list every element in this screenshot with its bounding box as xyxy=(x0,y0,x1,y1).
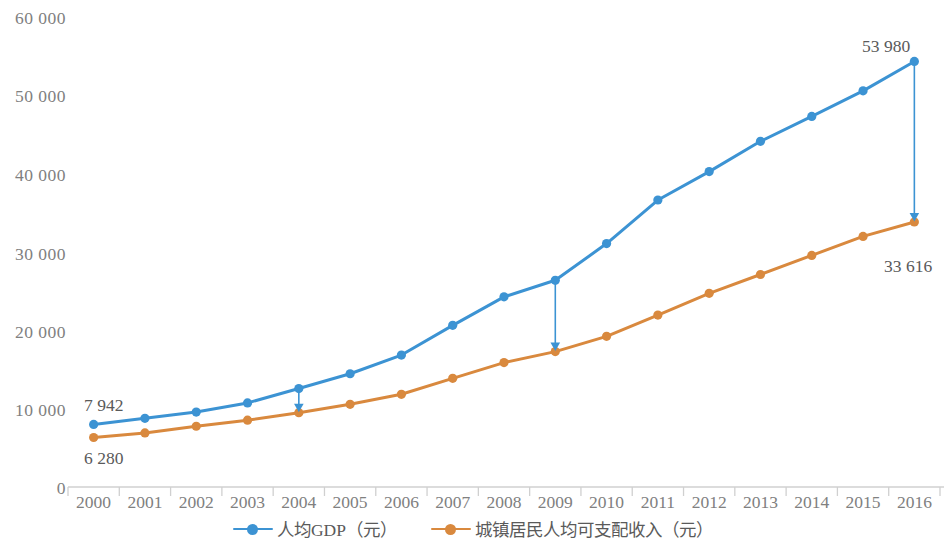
x-tick-label: 2000 xyxy=(76,492,111,513)
x-tick-label: 2009 xyxy=(538,492,573,513)
gap-arrow-2009 xyxy=(550,280,560,351)
gap-arrow-2016 xyxy=(910,61,920,221)
legend-item-income[interactable]: 城镇居民人均可支配收入（元） xyxy=(431,516,713,541)
data-point-income xyxy=(756,270,765,279)
plot-area xyxy=(0,0,946,546)
x-tick-label: 2005 xyxy=(333,492,368,513)
data-point-gdp xyxy=(192,407,201,416)
data-point-income xyxy=(705,289,714,298)
x-tick-label: 2003 xyxy=(230,492,265,513)
x-tick-label: 2004 xyxy=(281,492,316,513)
legend-item-gdp[interactable]: 人均GDP（元） xyxy=(233,516,397,541)
x-tick-label: 2011 xyxy=(641,492,675,513)
gap-arrow-2004 xyxy=(294,389,304,413)
legend-line-marker-icon xyxy=(431,522,471,536)
x-tick-label: 2007 xyxy=(435,492,470,513)
data-point-gdp xyxy=(705,167,714,176)
data-point-income xyxy=(243,416,252,425)
x-tick-label: 2008 xyxy=(487,492,522,513)
annotation-last-gdp-value: 53 980 xyxy=(862,36,910,57)
series-line-gdp xyxy=(94,61,915,424)
legend-label-income: 城镇居民人均可支配收入（元） xyxy=(475,516,713,541)
series-line-income xyxy=(94,222,915,437)
x-tick-label: 2016 xyxy=(897,492,932,513)
data-point-gdp xyxy=(140,414,149,423)
data-point-income xyxy=(602,332,611,341)
data-point-income xyxy=(89,433,98,442)
data-point-income xyxy=(346,400,355,409)
series-lines xyxy=(89,57,919,442)
data-point-gdp xyxy=(602,239,611,248)
data-point-income xyxy=(448,374,457,383)
data-point-income xyxy=(807,251,816,260)
x-tick-label: 2006 xyxy=(384,492,419,513)
data-point-gdp xyxy=(858,86,867,95)
chart-figure: 60 000 50 000 40 000 30 000 20 000 10 00… xyxy=(0,0,946,546)
data-point-gdp xyxy=(499,292,508,301)
annotation-first-gdp-value: 7 942 xyxy=(84,395,123,416)
data-point-gdp xyxy=(89,420,98,429)
data-point-gdp xyxy=(807,112,816,121)
data-point-income xyxy=(192,422,201,431)
annotation-last-income-value: 33 616 xyxy=(884,256,932,277)
x-tick-label: 2014 xyxy=(794,492,829,513)
annotation-first-income-value: 6 280 xyxy=(84,448,123,469)
data-point-gdp xyxy=(448,321,457,330)
x-tick-label: 2001 xyxy=(127,492,162,513)
legend-line-marker-icon xyxy=(233,522,273,536)
data-point-income xyxy=(397,390,406,399)
x-tick-label: 2012 xyxy=(692,492,727,513)
data-point-income xyxy=(499,358,508,367)
data-point-income xyxy=(653,310,662,319)
data-point-gdp xyxy=(346,369,355,378)
x-tick-label: 2010 xyxy=(589,492,624,513)
data-point-income xyxy=(858,232,867,241)
x-tick-label: 2015 xyxy=(846,492,881,513)
data-point-gdp xyxy=(653,195,662,204)
x-tick-label: 2013 xyxy=(743,492,778,513)
data-point-income xyxy=(140,428,149,437)
legend-label-gdp: 人均GDP（元） xyxy=(277,516,397,541)
chart-legend: 人均GDP（元） 城镇居民人均可支配收入（元） xyxy=(0,516,946,541)
x-tick-label: 2002 xyxy=(179,492,214,513)
data-point-gdp xyxy=(756,137,765,146)
data-point-gdp xyxy=(243,398,252,407)
data-point-gdp xyxy=(397,350,406,359)
